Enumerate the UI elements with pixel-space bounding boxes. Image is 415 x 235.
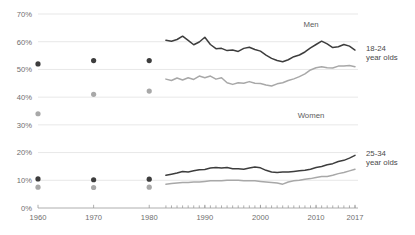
y-tick-label: 60%	[17, 38, 32, 47]
x-tick-label: 1990	[196, 213, 213, 222]
series-line-men-panel-1	[166, 36, 355, 62]
panel-label-line2: year olds	[366, 158, 398, 167]
series-line-men-panel-2	[166, 155, 355, 175]
data-marker-men	[147, 177, 152, 182]
panel-label-line2: year olds	[366, 53, 398, 62]
y-tick-label: 50%	[17, 65, 32, 74]
y-tick-label: 40%	[17, 93, 32, 102]
data-marker-men	[147, 58, 152, 63]
x-tick-label: 1980	[141, 213, 158, 222]
data-lines-group	[166, 36, 355, 184]
data-marker-men	[35, 61, 40, 66]
data-marker-women	[147, 185, 152, 190]
chart-svg: 0%10%20%30%40%50%60%70% 1960197019801990…	[0, 0, 415, 235]
series-label-men: Men	[303, 20, 318, 29]
y-axis-tick-labels: 0%10%20%30%40%50%60%70%	[17, 10, 32, 213]
x-axis-line	[38, 205, 358, 208]
y-tick-label: 30%	[17, 121, 32, 130]
x-tick-label: 2017	[347, 213, 364, 222]
data-markers-group	[35, 58, 151, 190]
series-annotations-group: 18-24year olds25-34year oldsMenWomen	[298, 20, 398, 167]
data-marker-men	[91, 177, 96, 182]
x-tick-label: 2010	[308, 213, 325, 222]
data-marker-men	[35, 176, 40, 181]
series-line-women-panel-1	[166, 66, 355, 87]
data-marker-women	[35, 185, 40, 190]
y-tick-label: 10%	[17, 176, 32, 185]
chart-container: 0%10%20%30%40%50%60%70% 1960197019801990…	[0, 0, 415, 235]
panel-label-line1: 18-24	[366, 44, 387, 53]
x-axis-tick-labels: 1960197019801990200020102017	[30, 213, 364, 222]
data-marker-women	[35, 111, 40, 116]
data-marker-men	[91, 58, 96, 63]
gridlines-group	[38, 14, 358, 180]
panel-label-line1: 25-34	[366, 149, 387, 158]
x-tick-label: 2000	[252, 213, 269, 222]
y-tick-label: 0%	[21, 204, 32, 213]
x-tick-label: 1960	[30, 213, 47, 222]
x-tick-label: 1970	[85, 213, 102, 222]
y-tick-label: 70%	[17, 10, 32, 19]
series-label-women: Women	[298, 111, 325, 120]
data-marker-women	[147, 88, 152, 93]
y-tick-label: 20%	[17, 148, 32, 157]
data-marker-women	[91, 185, 96, 190]
data-marker-women	[91, 92, 96, 97]
